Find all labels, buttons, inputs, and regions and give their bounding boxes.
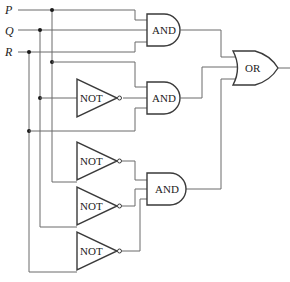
not-gate-3-label: NOT [80,200,103,212]
not-gate-1: NOT [77,79,122,117]
wire-not2-and3 [122,161,147,180]
not-gate-2-bubble [118,159,122,163]
input-wires [18,10,147,52]
junction-dot-q [38,28,42,32]
and-gate-1-label: AND [152,24,176,36]
not-gate-3-bubble [118,204,122,208]
wire-and1-or [180,30,236,57]
junction-dot-r [27,50,31,54]
and-gate-2: AND [147,82,180,114]
wire-not3-and3 [122,189,147,206]
wire-r-bus [29,52,77,272]
not-gate-4: NOT [77,232,122,270]
not-gate-3: NOT [77,187,122,225]
input-label-p: P [4,3,13,17]
or-gate: OR [233,51,278,85]
not-gate-4-bubble [118,249,122,253]
wire-q-bus [40,30,77,227]
not-gate-2: NOT [77,142,122,180]
and-gate-2-label: AND [152,92,176,104]
wire-and3-or [186,79,236,189]
input-label-r: R [4,45,13,59]
not-gate-2-label: NOT [80,155,103,167]
wire-and2-or [180,67,238,98]
junction-dot-p [50,8,54,12]
wire-p-and1 [18,10,147,20]
not-gate-4-label: NOT [80,245,103,257]
wire-p-and2 [52,62,147,87]
not-gate-1-bubble [118,96,122,100]
wire-r-and1 [18,42,147,52]
logic-circuit-diagram: P Q R AND AND [0,0,290,282]
and-gate-3: AND [147,173,186,205]
or-gate-label: OR [245,62,261,74]
bus-wires [29,10,77,272]
input-label-q: Q [5,24,14,38]
and-gate-3-label: AND [155,183,179,195]
and-gate-1: AND [147,14,180,46]
wire-p-bus [52,10,77,182]
not-gate-1-label: NOT [80,92,103,104]
wire-not4-and3 [122,199,147,251]
